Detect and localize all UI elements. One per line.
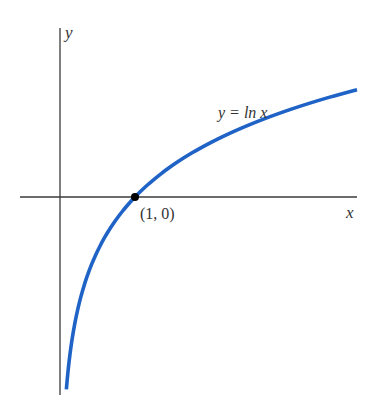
curve-label: y = ln x [216, 104, 267, 122]
curve-label-text: y = ln x [216, 104, 267, 122]
x-axis-label: x [345, 203, 354, 222]
y-axis-label: y [63, 23, 73, 42]
ln-graph: y x (1, 0) y = ln x [0, 0, 371, 419]
point-1-0-marker [131, 193, 139, 201]
point-label: (1, 0) [140, 205, 175, 223]
ln-curve [66, 90, 357, 390]
